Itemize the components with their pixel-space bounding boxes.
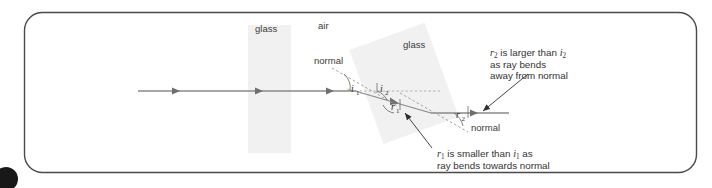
svg-text:1: 1 bbox=[396, 107, 400, 115]
label-glass-right: glass bbox=[403, 39, 425, 50]
glass-slab-vertical bbox=[248, 25, 291, 153]
incident-ray-arrowhead-3 bbox=[326, 88, 334, 95]
annot-tr-line2: as ray bends bbox=[490, 59, 546, 70]
annot-tr-mid: is larger than bbox=[498, 47, 560, 58]
emergent-ray-arrowhead bbox=[470, 110, 478, 117]
corner-mark bbox=[0, 167, 18, 188]
angle-arc-i1 bbox=[344, 74, 350, 91]
svg-text:2: 2 bbox=[462, 115, 466, 123]
annot-tr-sub-i2: 2 bbox=[562, 52, 566, 60]
svg-text:r: r bbox=[456, 109, 460, 120]
annot-b-line2: ray bends towards normal bbox=[437, 160, 550, 171]
refraction-diagram-figure: glass air glass normal normal i 1 i 2 r … bbox=[0, 0, 712, 188]
diagram-canvas: glass air glass normal normal i 1 i 2 r … bbox=[0, 0, 712, 188]
annot-tr-line3: away from normal bbox=[490, 70, 568, 81]
svg-text:i: i bbox=[351, 83, 354, 94]
label-glass-left: glass bbox=[255, 23, 277, 34]
annotation-top-right: r2 is larger than i2 as ray bends away f… bbox=[490, 47, 568, 81]
svg-text:2: 2 bbox=[385, 89, 389, 97]
label-normal-second: normal bbox=[471, 122, 500, 133]
incident-ray-arrowhead-1 bbox=[172, 88, 180, 95]
svg-text:i: i bbox=[380, 83, 383, 94]
angle-label-i1: i 1 bbox=[351, 83, 360, 97]
annotation-bottom: r1 is smaller than i1 as ray bends towar… bbox=[437, 148, 550, 171]
label-normal-first: normal bbox=[314, 55, 343, 66]
svg-text:1: 1 bbox=[356, 89, 360, 97]
angle-label-r2: r 2 bbox=[456, 109, 466, 123]
label-air: air bbox=[318, 20, 329, 31]
annot-b-end: as bbox=[520, 148, 533, 159]
svg-text:r: r bbox=[391, 101, 395, 112]
annot-b-mid: is smaller than bbox=[445, 148, 514, 159]
